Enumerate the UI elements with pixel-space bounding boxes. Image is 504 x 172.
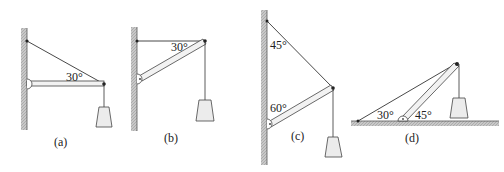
wall [261,10,267,165]
angle-label: 30° [171,40,188,54]
figure-d: 30° 45° (d) [351,62,499,145]
figure-label: (c) [291,129,304,143]
figure-label: (b) [164,131,178,145]
wall [131,27,137,131]
wall [21,28,27,130]
figure-label: (d) [405,131,419,145]
angle-label: 30° [377,108,394,122]
angle-label: 45° [415,108,432,122]
hinge-icon [27,79,32,89]
weight [196,100,214,121]
weight [450,98,468,118]
figure-a: 30° (a) [21,28,112,149]
angle-label: 60° [270,101,287,115]
figure-label: (a) [54,135,67,149]
cable [267,21,333,88]
figure-b: 30° (b) [131,27,214,145]
weight [96,107,112,127]
angle-label: 45° [270,38,287,52]
figure-c: 45° 60° (c) [261,10,342,165]
weight [325,137,342,157]
angle-label: 30° [66,70,83,84]
